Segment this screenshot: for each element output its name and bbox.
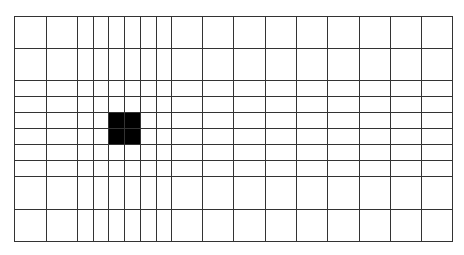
grid-canvas (0, 0, 464, 255)
